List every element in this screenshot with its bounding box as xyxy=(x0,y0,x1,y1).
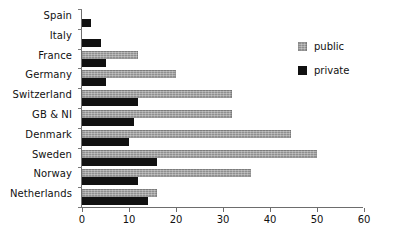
bar-public xyxy=(82,110,232,118)
public-swatch-icon xyxy=(298,42,307,51)
y-tick-nub xyxy=(78,187,82,188)
x-tick-mark xyxy=(176,208,177,212)
x-tick-label: 30 xyxy=(217,214,230,226)
x-tick-mark xyxy=(364,208,365,212)
x-axis-line xyxy=(81,207,363,208)
bar-public xyxy=(82,150,317,158)
x-tick-label: 40 xyxy=(264,214,277,226)
category-label: France xyxy=(0,50,76,61)
category-label: Denmark xyxy=(0,129,76,140)
bar-public xyxy=(82,130,291,138)
x-tick-label: 10 xyxy=(123,214,136,226)
bar-public xyxy=(82,169,251,177)
bar-public xyxy=(82,189,157,197)
bar-private xyxy=(82,138,129,146)
x-tick-label: 50 xyxy=(311,214,324,226)
x-tick-label: 60 xyxy=(358,214,371,226)
category-label: Spain xyxy=(0,10,76,21)
x-tick-label: 20 xyxy=(170,214,183,226)
legend-label-private: private xyxy=(314,65,349,76)
category-label: Switzerland xyxy=(0,89,76,100)
bar-public xyxy=(82,90,232,98)
x-tick-mark xyxy=(82,208,83,212)
bar-private xyxy=(82,158,157,166)
bar-private xyxy=(82,78,106,86)
y-tick-nub xyxy=(78,207,82,208)
bar-private xyxy=(82,19,91,27)
category-label: Netherlands xyxy=(0,188,76,199)
x-tick-mark xyxy=(317,208,318,212)
bar-private xyxy=(82,197,148,205)
y-tick-nub xyxy=(78,9,82,10)
category-label: Germany xyxy=(0,69,76,80)
bar-private xyxy=(82,177,138,185)
bar-private xyxy=(82,59,106,67)
x-tick-label: 0 xyxy=(79,214,85,226)
y-tick-nub xyxy=(78,108,82,109)
category-axis-labels: SpainItalyFranceGermanySwitzerlandGB & N… xyxy=(0,9,76,207)
category-label: GB & NI xyxy=(0,109,76,120)
y-tick-nub xyxy=(78,88,82,89)
x-tick-mark xyxy=(223,208,224,212)
chart-legend: public private xyxy=(298,41,390,89)
bar-private xyxy=(82,98,138,106)
legend-item-private: private xyxy=(298,65,390,76)
bar-public xyxy=(82,70,176,78)
category-label: Norway xyxy=(0,168,76,179)
bar-chart: SpainItalyFranceGermanySwitzerlandGB & N… xyxy=(0,0,394,242)
bar-private xyxy=(82,118,134,126)
category-label: Italy xyxy=(0,30,76,41)
y-tick-nub xyxy=(78,167,82,168)
legend-label-public: public xyxy=(314,41,344,52)
x-tick-mark xyxy=(129,208,130,212)
private-swatch-icon xyxy=(298,66,307,75)
plot-area: 0102030405060 xyxy=(82,9,366,207)
legend-item-public: public xyxy=(298,41,390,52)
y-tick-nub xyxy=(78,29,82,30)
bar-private xyxy=(82,39,101,47)
category-label: Sweden xyxy=(0,149,76,160)
y-tick-nub xyxy=(78,68,82,69)
x-tick-mark xyxy=(270,208,271,212)
bar-public xyxy=(82,51,138,59)
